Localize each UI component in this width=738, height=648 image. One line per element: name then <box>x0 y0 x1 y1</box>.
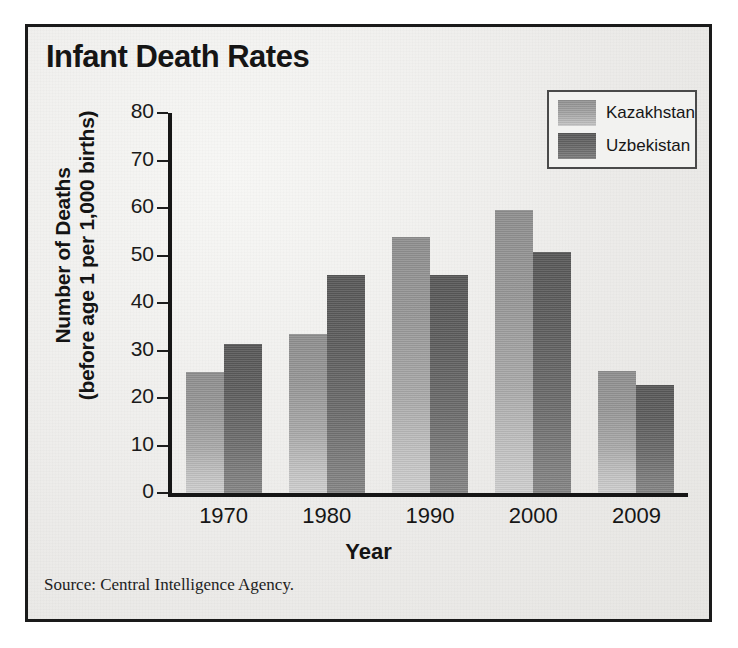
x-axis-tick-label-1980: 1980 <box>275 503 378 529</box>
y-axis-tick-label-40: 40 <box>108 289 154 313</box>
y-axis-tick-30 <box>157 350 168 352</box>
y-axis-tick-50 <box>157 255 168 257</box>
bar-kazakhstan-2009 <box>598 371 636 493</box>
bar-group-1970 <box>172 113 275 493</box>
plot-area: 80706050403020100 19701980199020002009 <box>168 113 688 497</box>
y-axis-tick-label-70: 70 <box>108 147 154 171</box>
bar-uzbekistan-1980 <box>327 275 365 494</box>
source-note: Source: Central Intelligence Agency. <box>44 575 294 595</box>
y-axis-tick-label-30: 30 <box>108 337 154 361</box>
x-axis-tick-label-1970: 1970 <box>172 503 275 529</box>
chart-figure: Infant Death Rates Number of Deaths (bef… <box>25 24 712 622</box>
bar-kazakhstan-1990 <box>392 237 430 493</box>
bar-group-2009 <box>585 113 688 493</box>
legend-swatch-icon-kazakhstan <box>558 100 596 126</box>
chart-legend: Kazakhstan Uzbekistan <box>547 90 697 169</box>
y-axis-tick-label-0: 0 <box>108 479 154 503</box>
y-axis-tick-label-60: 60 <box>108 194 154 218</box>
legend-item-uzbekistan: Uzbekistan <box>558 133 686 159</box>
x-axis-tick-label-2009: 2009 <box>585 503 688 529</box>
y-axis-tick-label-10: 10 <box>108 432 154 456</box>
bar-kazakhstan-2000 <box>495 210 533 493</box>
y-axis-tick-70 <box>157 160 168 162</box>
bar-group-1980 <box>275 113 378 493</box>
legend-swatch-icon-uzbekistan <box>558 133 596 159</box>
bar-kazakhstan-1970 <box>186 372 224 493</box>
bar-kazakhstan-1980 <box>289 334 327 493</box>
bar-uzbekistan-2000 <box>533 252 571 493</box>
bar-uzbekistan-1990 <box>430 275 468 494</box>
bar-group-2000 <box>482 113 585 493</box>
y-axis-tick-labels: 80706050403020100 <box>102 113 154 497</box>
y-axis-tick-40 <box>157 302 168 304</box>
bar-group-1990 <box>378 113 481 493</box>
y-axis-tick-60 <box>157 207 168 209</box>
y-axis-tick-label-50: 50 <box>108 242 154 266</box>
y-axis-tick-20 <box>157 397 168 399</box>
x-axis-tick-labels: 19701980199020002009 <box>172 503 688 529</box>
y-axis-tick-label-20: 20 <box>108 384 154 408</box>
y-axis-title-line1: Number of Deaths <box>51 61 75 451</box>
y-axis-title-line2: (before age 1 per 1,000 births) <box>75 61 99 451</box>
bar-uzbekistan-1970 <box>224 344 262 493</box>
y-axis-tick-10 <box>157 445 168 447</box>
y-axis-tick-0 <box>157 492 168 494</box>
y-axis-tick-label-80: 80 <box>108 99 154 123</box>
bar-uzbekistan-2009 <box>636 385 674 493</box>
y-axis-tick-80 <box>157 112 168 114</box>
x-axis-tick-label-2000: 2000 <box>482 503 585 529</box>
legend-label-uzbekistan: Uzbekistan <box>606 136 690 156</box>
x-axis-tick-label-1990: 1990 <box>378 503 481 529</box>
legend-item-kazakhstan: Kazakhstan <box>558 100 686 126</box>
y-axis-title: Number of Deaths (before age 1 per 1,000… <box>51 61 98 451</box>
bar-groups <box>172 113 688 493</box>
legend-label-kazakhstan: Kazakhstan <box>606 103 695 123</box>
x-axis-title: Year <box>28 539 709 565</box>
x-axis-line <box>168 493 688 497</box>
